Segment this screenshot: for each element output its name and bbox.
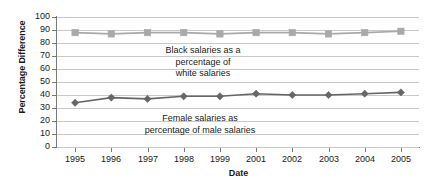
- annotation-black-line-3: white salaries: [118, 68, 288, 80]
- gridline: [57, 17, 419, 18]
- gridline: [57, 43, 419, 44]
- y-axis-tick: [52, 43, 57, 44]
- gridline: [57, 30, 419, 31]
- x-axis-tick: [148, 148, 149, 152]
- y-axis-tick-label: 0: [8, 142, 50, 151]
- x-axis-tick-label: 2005: [381, 154, 421, 164]
- x-axis-tick-label: 2003: [309, 154, 349, 164]
- x-axis-tick: [292, 148, 293, 152]
- y-axis-tick: [52, 17, 57, 18]
- y-axis-tick: [52, 147, 57, 148]
- y-axis-tick: [52, 121, 57, 122]
- y-axis-tick-label: 100: [8, 12, 50, 21]
- chart-container: Percentage Difference 100908070605040302…: [0, 0, 435, 189]
- y-axis-tick-label: 10: [8, 129, 50, 138]
- annotation-female-line-2: percentage of male salaries: [100, 125, 300, 137]
- y-axis-tick-label: 40: [8, 90, 50, 99]
- y-axis-tick-label: 60: [8, 64, 50, 73]
- gridline: [57, 82, 419, 83]
- x-axis-tick: [111, 148, 112, 152]
- annotation-black-salaries: Black salaries as a percentage of white …: [118, 45, 288, 80]
- gridline: [57, 95, 419, 96]
- y-axis-tick-label: 90: [8, 25, 50, 34]
- x-axis-tick: [220, 148, 221, 152]
- series-line: [75, 92, 401, 102]
- x-axis-tick-label: 1999: [200, 154, 240, 164]
- annotation-black-line-1: Black salaries as a: [118, 45, 288, 57]
- y-axis-tick-label: 50: [8, 77, 50, 86]
- y-axis-tick: [52, 82, 57, 83]
- series-lower: [72, 89, 405, 107]
- annotation-female-salaries: Female salaries as percentage of male sa…: [100, 113, 300, 136]
- y-axis-tick-label: 30: [8, 103, 50, 112]
- x-axis-tick: [401, 148, 402, 152]
- y-axis-tick-label: 20: [8, 116, 50, 125]
- x-axis-tick: [329, 148, 330, 152]
- data-point-diamond: [72, 99, 79, 106]
- x-axis-tick: [256, 148, 257, 152]
- data-point-diamond: [144, 95, 151, 102]
- gridline: [57, 108, 419, 109]
- y-axis-tick-label: 80: [8, 38, 50, 47]
- y-axis-tick: [52, 30, 57, 31]
- x-axis-tick-label: 2002: [272, 154, 312, 164]
- x-axis-tick: [75, 148, 76, 152]
- x-axis-tick: [365, 148, 366, 152]
- series-line: [75, 31, 401, 34]
- x-axis-tick-label: 1998: [164, 154, 204, 164]
- x-axis-tick-label: 2001: [236, 154, 276, 164]
- annotation-female-line-1: Female salaries as: [100, 113, 300, 125]
- data-point-diamond: [361, 90, 368, 97]
- y-axis-tick: [52, 69, 57, 70]
- data-point-square: [108, 31, 114, 37]
- x-axis-tick-label: 2004: [345, 154, 385, 164]
- x-axis-title-text: Date: [187, 168, 249, 178]
- x-axis-tick-label: 1995: [55, 154, 95, 164]
- data-point-square: [217, 31, 223, 37]
- annotation-black-line-2: percentage of: [118, 57, 288, 69]
- data-point-diamond: [216, 93, 223, 100]
- data-point-diamond: [253, 90, 260, 97]
- y-axis-tick-label: 70: [8, 51, 50, 60]
- data-point-square: [325, 31, 331, 37]
- y-axis-tick: [52, 134, 57, 135]
- y-axis-tick: [52, 56, 57, 57]
- x-axis-tick-label: 1996: [91, 154, 131, 164]
- x-axis-tick-label: 1997: [128, 154, 168, 164]
- y-axis-tick: [52, 95, 57, 96]
- x-axis-title: Date: [0, 168, 435, 178]
- x-axis-tick: [184, 148, 185, 152]
- data-point-diamond: [180, 93, 187, 100]
- y-axis-tick: [52, 108, 57, 109]
